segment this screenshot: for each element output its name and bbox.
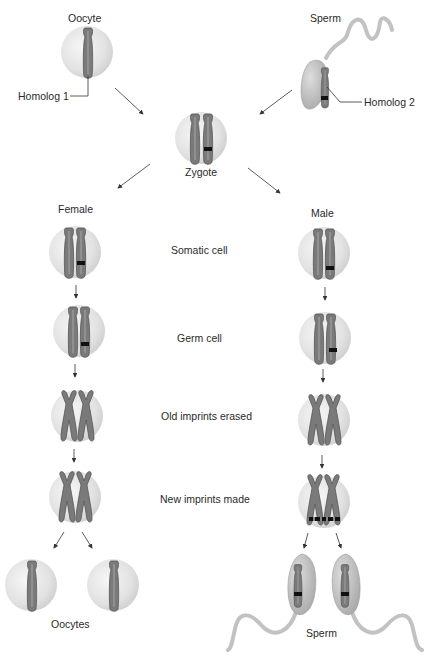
male-somatic-cell — [298, 227, 350, 279]
sperm-daughter-2 — [332, 554, 422, 650]
female-new-imprint-cell — [49, 471, 101, 523]
male-erased-cell — [298, 394, 350, 446]
female-somatic-cell — [49, 226, 101, 278]
homolog2-leader-line — [327, 87, 362, 102]
homolog1-leader-line — [70, 76, 88, 96]
homolog1-callout: Homolog 1 — [18, 90, 69, 102]
male-germ-cell — [299, 312, 351, 364]
zygote-label: Zygote — [185, 166, 217, 178]
stage-old-imprints-erased: Old imprints erased — [161, 410, 252, 422]
oocytes-label: Oocytes — [51, 618, 90, 630]
oocyte-daughter-1 — [5, 559, 57, 611]
sperm-bottom-label: Sperm — [306, 627, 337, 639]
stage-new-imprints-made: New imprints made — [160, 493, 250, 505]
sperm-label: Sperm — [310, 12, 341, 24]
oocyte-top-cell — [61, 26, 113, 78]
female-label: Female — [58, 203, 93, 215]
oocyte-label: Oocyte — [68, 12, 101, 24]
female-erased-cell — [51, 390, 103, 442]
oocyte-daughter-2 — [87, 559, 139, 611]
stage-germ-cell: Germ cell — [177, 332, 222, 344]
male-label: Male — [311, 207, 334, 219]
zygote-cell — [175, 112, 227, 164]
sperm-daughter-1 — [228, 554, 316, 650]
homolog2-callout: Homolog 2 — [364, 96, 415, 108]
stage-somatic-cell: Somatic cell — [171, 244, 228, 256]
female-germ-cell — [53, 305, 105, 357]
male-new-imprint-cell — [298, 475, 350, 528]
